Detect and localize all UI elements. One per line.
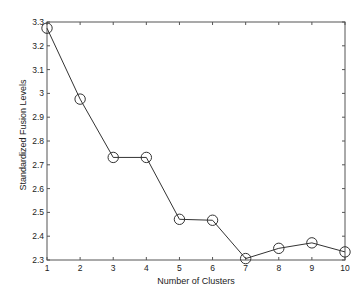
- x-tick-label: 9: [310, 263, 315, 273]
- y-axis-ticks: 2.32.42.52.62.72.82.933.13.23.3: [32, 17, 345, 265]
- x-tick-label: 2: [78, 263, 83, 273]
- data-series: [42, 23, 350, 264]
- y-tick-label: 2.3: [32, 255, 44, 265]
- y-tick-label: 2.6: [32, 184, 44, 194]
- y-tick-label: 2.8: [32, 136, 44, 146]
- y-axis-label: Standardized Fusion Levels: [18, 79, 28, 191]
- x-tick-label: 6: [210, 263, 215, 273]
- series-line: [47, 28, 345, 258]
- y-tick-label: 2.5: [32, 207, 44, 217]
- y-tick-label: 3: [39, 88, 44, 98]
- x-tick-label: 7: [243, 263, 248, 273]
- x-tick-label: 5: [177, 263, 182, 273]
- y-tick-label: 3.2: [32, 41, 44, 51]
- plot-frame: [47, 22, 345, 260]
- axes-box: [47, 22, 345, 260]
- x-tick-label: 8: [276, 263, 281, 273]
- x-tick-label: 10: [340, 263, 350, 273]
- x-tick-label: 4: [144, 263, 149, 273]
- y-tick-label: 3.1: [32, 65, 44, 75]
- x-tick-label: 3: [111, 263, 116, 273]
- y-tick-label: 2.9: [32, 112, 44, 122]
- fusion-levels-chart: 12345678910 2.32.42.52.62.72.82.933.13.2…: [0, 0, 363, 296]
- y-tick-label: 2.4: [32, 231, 44, 241]
- x-axis-ticks: 12345678910: [45, 22, 350, 273]
- x-tick-label: 1: [45, 263, 50, 273]
- x-axis-label: Number of Clusters: [157, 276, 235, 286]
- y-tick-label: 2.7: [32, 160, 44, 170]
